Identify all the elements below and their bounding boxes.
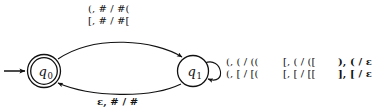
transition-label-q1-to-q0-line-1: ε, # / # [97, 96, 138, 108]
state-q1[interactable]: q 1 [178, 56, 209, 87]
self-loop-label-col2-line-2: [, [ / [[ [283, 68, 316, 80]
automaton-canvas: q 0 q 1 [0, 0, 385, 112]
state-q0-label: q [39, 64, 47, 79]
self-loop-label-col3-line-1: ), ( / ε [338, 56, 372, 68]
transition-q0-to-q1[interactable] [58, 42, 182, 59]
state-q1-subscript: 1 [197, 71, 202, 81]
transition-label-q1-to-q0: ε, # / # [97, 96, 138, 108]
self-loop-label-col2-line-1: [, ( / ([ [283, 56, 316, 68]
transition-label-q0-to-q1-line-2: [, # / #[ [88, 15, 130, 27]
self-loop-label-col1-line-1: (, ( / (( [226, 56, 259, 68]
self-loop-label-column-3: ), ( / ε ], [ / ε [338, 56, 372, 80]
pda-state-diagram: q 0 q 1 (, # / #( [, # / #[ ε, # / # (, … [0, 0, 385, 112]
state-q0[interactable]: q 0 [28, 55, 61, 88]
self-loop-label-col1-line-2: (, [ / [( [226, 68, 259, 80]
transition-q1-to-q0[interactable] [58, 83, 181, 94]
self-loop-label-column-1: (, ( / (( (, [ / [( [226, 56, 259, 80]
state-q1-label: q [188, 64, 196, 79]
transition-label-q0-to-q1: (, # / #( [, # / #[ [88, 3, 130, 27]
self-loop-label-col3-line-2: ], [ / ε [338, 68, 372, 80]
transition-label-q0-to-q1-line-1: (, # / #( [88, 3, 130, 15]
state-q0-subscript: 0 [48, 71, 53, 81]
self-loop-label-column-2: [, ( / ([ [, [ / [[ [283, 56, 316, 80]
